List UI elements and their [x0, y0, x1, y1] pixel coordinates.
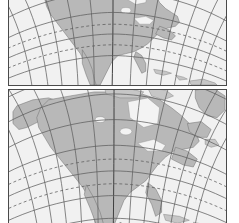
map-graphic-upper: [9, 0, 226, 85]
lake-winnipeg-lower: [120, 128, 132, 135]
map-panel-upper[interactable]: [8, 0, 227, 86]
map-panel-lower[interactable]: [8, 89, 227, 223]
map-graphic-lower: [9, 90, 226, 223]
two-panel-map-figure: [0, 0, 239, 223]
